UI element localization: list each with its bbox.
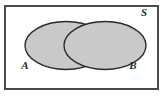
venn-diagram-canvas: A B S <box>0 0 164 96</box>
set-b-label: B <box>128 59 136 71</box>
venn-diagram-figure: A B S <box>0 0 164 96</box>
set-a-label: A <box>20 59 28 71</box>
universal-set-label: S <box>141 6 147 18</box>
